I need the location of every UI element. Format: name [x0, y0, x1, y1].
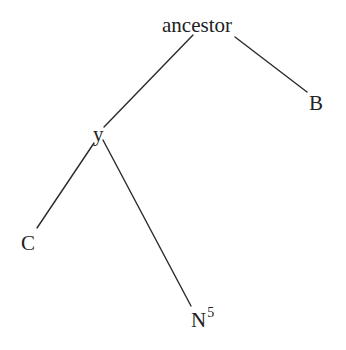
edge-y-c: [37, 143, 94, 228]
node-ancestor-label: ancestor: [162, 13, 232, 37]
node-b: B: [309, 93, 323, 114]
node-y-label: y: [93, 122, 104, 146]
tree-edges: [0, 0, 346, 350]
node-ancestor: ancestor: [162, 15, 232, 36]
edge-y-n: [103, 140, 191, 306]
tree-diagram: ancestor y B C N5: [0, 0, 346, 350]
node-c-label: C: [21, 231, 35, 255]
node-b-label: B: [309, 91, 323, 115]
node-c: C: [21, 233, 35, 254]
edge-ancestor-b: [235, 37, 307, 92]
edge-ancestor-y: [104, 35, 193, 127]
node-n5: N5: [191, 310, 214, 331]
node-n5-superscript: 5: [207, 305, 214, 320]
node-n5-label: N: [191, 308, 206, 332]
node-y: y: [93, 124, 104, 145]
